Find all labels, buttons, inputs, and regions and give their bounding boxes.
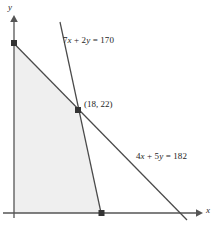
vertex-marker-x-intercept xyxy=(99,210,105,216)
y-axis-arrowhead-icon xyxy=(10,15,18,22)
cropped-caption-remnant xyxy=(4,227,144,234)
vertex-coordinate-label: (18, 22) xyxy=(84,100,113,109)
linear-programming-figure: y x 7x + 2y = 170 4x + 5y = 182 (18, 22) xyxy=(0,0,219,234)
y-axis-label: y xyxy=(8,3,12,12)
equation-label-shallow: 4x + 5y = 182 xyxy=(136,152,187,161)
equation-shallow-suffix: = 182 xyxy=(163,151,187,161)
x-axis-arrowhead-icon xyxy=(196,209,203,217)
x-axis-label: x xyxy=(206,206,210,215)
vertex-marker-y-intercept xyxy=(11,40,17,46)
vertex-marker-intersection xyxy=(75,107,81,113)
feasible-region-shading xyxy=(14,43,101,213)
equation-shallow-mid: + 5 xyxy=(145,151,159,161)
equation-steep-mid: + 2 xyxy=(72,35,86,45)
equation-label-steep: 7x + 2y = 170 xyxy=(63,36,114,45)
equation-steep-suffix: = 170 xyxy=(90,35,114,45)
